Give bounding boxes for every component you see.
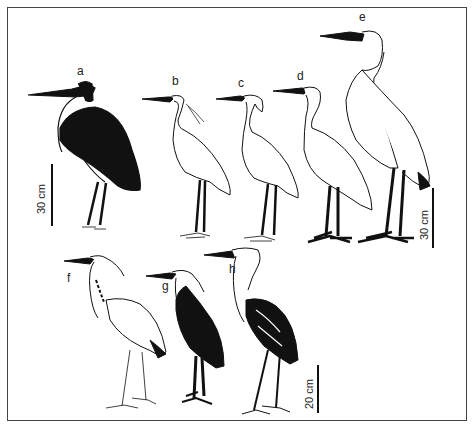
label-a: a [77, 65, 84, 77]
label-e: e [359, 11, 366, 23]
label-f: f [67, 272, 70, 284]
bird-c-illustration [216, 95, 298, 241]
bird-h-illustration [204, 248, 298, 414]
label-g: g [162, 280, 169, 292]
bird-b-illustration [142, 96, 230, 239]
scale-bar-label: 30 cm [35, 184, 47, 214]
scale-bar-label: 30 cm [418, 210, 430, 240]
bird-f-illustration [64, 256, 166, 408]
label-b: b [172, 75, 179, 87]
label-h: h [229, 263, 236, 275]
label-d: d [297, 70, 304, 82]
scale-bar-line [317, 365, 319, 413]
scale-bar-label: 20 cm [303, 379, 315, 409]
scale-bar-line [432, 188, 434, 248]
bird-illustrations [0, 0, 475, 429]
scale-bar-line [51, 164, 53, 226]
label-c: c [238, 77, 244, 89]
